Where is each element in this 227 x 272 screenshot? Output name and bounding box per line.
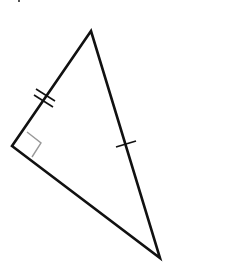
right-angle-marker — [27, 132, 41, 157]
right-triangle — [12, 31, 160, 258]
stray-mark — [18, 0, 20, 2]
triangle-diagram — [0, 0, 227, 272]
